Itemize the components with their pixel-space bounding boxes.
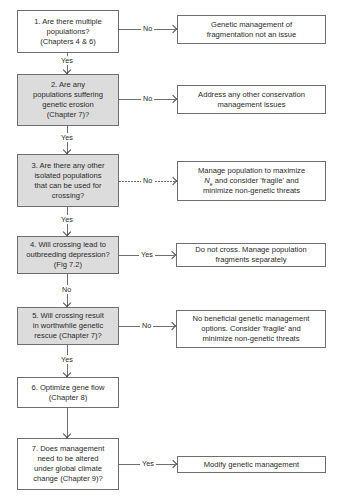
arrow-down-icon [63, 299, 71, 307]
arrow-down-icon [63, 66, 71, 74]
arrow-right-icon [169, 95, 177, 103]
arrow-right-icon [169, 460, 177, 468]
outcome-box-3: Manage population to maximize Ne and con… [177, 161, 326, 201]
outcome-3-line-2-rest: and consider 'fragile' and [213, 176, 299, 185]
decision-box-1: 1. Are there multiple populations? (Chap… [17, 10, 119, 53]
outcome-box-1: Genetic management of fragmentation not … [177, 15, 326, 44]
branch-label-2: No [141, 94, 154, 103]
decision-box-3: 3. Are there any other isolated populati… [17, 154, 119, 207]
branch-label-1: No [141, 24, 154, 33]
decision-box-6: 6. Optimize gene flow (Chapter 8) [17, 377, 119, 408]
branch-label-2-3: Yes [59, 133, 75, 142]
outcome-box-4: Do not cross. Manage population fragment… [176, 243, 326, 267]
branch-label-5-6: Yes [59, 355, 75, 364]
decision-box-4: 4. Will crossing lead to outbreeding dep… [17, 236, 119, 274]
arrow-down-icon [63, 430, 71, 438]
arrow-down-icon [63, 228, 71, 236]
outcome-box-2: Address any other conservation managemen… [177, 85, 326, 114]
decision-box-5: 5. Will crossing result in worthwhile ge… [17, 307, 119, 345]
branch-label-4-5: No [60, 285, 73, 294]
decision-box-2: 2. Are any populations suffering genetic… [17, 74, 119, 126]
arrow-right-icon [169, 177, 177, 185]
arrow-right-icon [168, 322, 176, 330]
outcome-box-5: No beneficial genetic management options… [176, 310, 326, 348]
branch-label-4: Yes [139, 250, 155, 259]
decision-box-7: 7. Does management need to be altered un… [17, 438, 119, 490]
branch-label-1-2: Yes [59, 56, 75, 65]
arrow-down-icon [63, 146, 71, 154]
outcome-3-line-1: Manage population to maximize [198, 166, 305, 176]
outcome-3-line-3: minimize non-genetic threats [203, 186, 300, 196]
outcome-3-line-2: Ne and consider 'fragile' and [204, 176, 298, 186]
outcome-box-7: Modify genetic management [177, 456, 326, 473]
branch-label-5: No [140, 321, 153, 330]
arrow-right-icon [168, 251, 176, 259]
arrow-down-icon [63, 369, 71, 377]
arrow-right-icon [169, 25, 177, 33]
branch-label-3-4: Yes [59, 215, 75, 224]
branch-label-7: Yes [140, 459, 156, 468]
branch-label-3: No [141, 176, 154, 185]
